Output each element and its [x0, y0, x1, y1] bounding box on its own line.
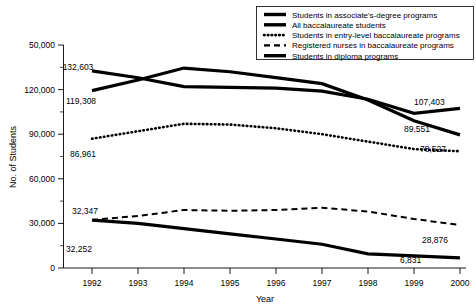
legend-label-entry-level-baccalaureate: Students in entry-level baccalaureate pr…	[292, 31, 460, 40]
data-label: 78,527	[420, 144, 446, 154]
data-label: 89,551	[404, 124, 430, 134]
y-tick-label: 30,000	[29, 218, 55, 228]
x-tick-label: 1992	[83, 278, 102, 288]
chart-legend: Students in associate's-degree programs …	[257, 7, 474, 61]
y-tick-label: 90,000	[29, 129, 55, 139]
y-tick-label: 50,000	[29, 40, 55, 50]
data-label: 32,252	[66, 244, 92, 254]
x-tick-label: 1997	[313, 278, 332, 288]
y-tick-label: 60,000	[29, 174, 55, 184]
y-tick-label: 0	[50, 263, 55, 273]
x-tick-label: 2000	[451, 278, 470, 288]
x-axis-tick-labels: 1992 1993 1994 1995 1996 1997 1998 1999 …	[83, 278, 470, 288]
y-axis	[58, 45, 64, 268]
data-label: 119,308	[66, 96, 96, 106]
chart-svg: 50,000 120,000 90,000 60,000 30,000 0 No…	[0, 0, 476, 307]
y-axis-tick-labels: 50,000 120,000 90,000 60,000 30,000 0	[24, 40, 55, 273]
x-axis-title: Year	[256, 294, 274, 304]
legend-label-diploma: Students in diploma programs	[292, 52, 398, 61]
x-tick-label: 1996	[267, 278, 286, 288]
series-line-diploma	[92, 220, 460, 258]
data-label: 32,347	[72, 206, 98, 216]
x-tick-label: 1993	[129, 278, 148, 288]
legend-label-registered-nurses: Registered nurses in baccalaureate progr…	[292, 41, 454, 50]
nursing-enrollment-line-chart: 50,000 120,000 90,000 60,000 30,000 0 No…	[0, 0, 476, 307]
data-label: 28,876	[422, 235, 448, 245]
x-tick-label: 1999	[405, 278, 424, 288]
series-line-registered-nurses	[92, 208, 460, 225]
legend-label-all-baccalaureate: All baccalaureate students	[292, 21, 386, 30]
x-axis	[64, 268, 467, 274]
x-tick-label: 1998	[359, 278, 378, 288]
data-label: 132,603	[63, 62, 94, 72]
data-label: 6,831	[400, 255, 422, 265]
y-tick-label: 120,000	[24, 85, 55, 95]
y-axis-title: No. of Students	[8, 125, 18, 188]
series-group	[92, 68, 460, 258]
legend-label-associates-degree: Students in associate's-degree programs	[292, 11, 437, 20]
data-label: 107,403	[414, 97, 445, 107]
data-value-labels: 132,603 119,308 86,961 32,347 32,252 107…	[63, 62, 449, 265]
data-label: 86,961	[70, 149, 96, 159]
x-tick-label: 1995	[221, 278, 240, 288]
x-tick-label: 1994	[175, 278, 194, 288]
